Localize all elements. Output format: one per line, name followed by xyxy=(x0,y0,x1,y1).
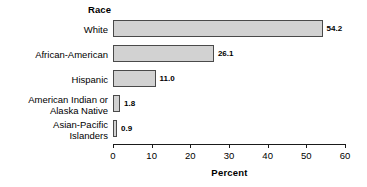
x-tick-30 xyxy=(229,144,230,148)
x-tick-50 xyxy=(306,144,307,148)
category-label-white: White xyxy=(84,24,108,35)
plot-area: 54.2 26.1 11.0 1.8 0.9 xyxy=(113,18,345,144)
bar-chart: Race White African-American Hispanic Ame… xyxy=(0,0,367,187)
bar-value-african-american: 26.1 xyxy=(218,49,234,58)
x-tick-label-50: 50 xyxy=(301,150,312,161)
group-title: Race xyxy=(88,4,111,15)
bar-value-asian-pacific-islanders: 0.9 xyxy=(121,124,132,133)
x-tick-label-30: 30 xyxy=(224,150,235,161)
x-tick-label-20: 20 xyxy=(185,150,196,161)
category-label-african-american: African-American xyxy=(35,49,108,60)
bar-value-hispanic: 11.0 xyxy=(160,74,175,83)
bar-african-american xyxy=(113,45,214,62)
bar-white xyxy=(113,20,323,37)
bar-value-american-indian-alaska-native: 1.8 xyxy=(124,99,135,108)
x-tick-label-10: 10 xyxy=(146,150,157,161)
category-label-american-indian-alaska-native: American Indian or Alaska Native xyxy=(28,94,108,116)
x-tick-40 xyxy=(268,144,269,148)
category-label-asian-pacific-islanders: Asian-Pacific Islanders xyxy=(53,119,108,141)
x-tick-label-0: 0 xyxy=(110,150,115,161)
category-label-hispanic: Hispanic xyxy=(72,74,108,85)
bar-hispanic xyxy=(113,70,156,87)
bar-asian-pacific-islanders xyxy=(113,120,117,137)
x-axis-title: Percent xyxy=(113,167,346,178)
x-tick-10 xyxy=(152,144,153,148)
x-tick-0 xyxy=(113,144,114,148)
x-tick-20 xyxy=(190,144,191,148)
x-tick-60 xyxy=(345,144,346,148)
x-tick-label-60: 60 xyxy=(340,150,351,161)
bar-value-white: 54.2 xyxy=(327,24,343,33)
x-tick-label-40: 40 xyxy=(262,150,273,161)
bar-american-indian-alaska-native xyxy=(113,95,120,112)
